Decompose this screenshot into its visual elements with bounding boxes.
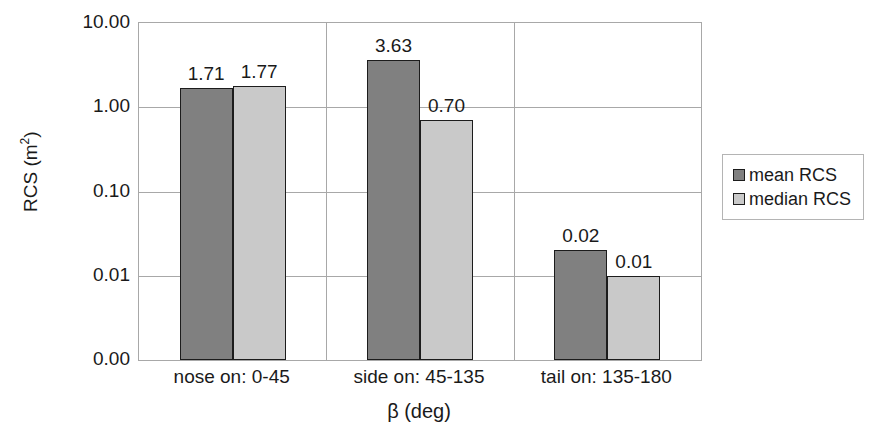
bar-value-label: 0.01 — [599, 252, 668, 271]
bar-value-label: 3.63 — [359, 36, 428, 55]
y-axis-tick-label: 10.00 — [10, 12, 130, 31]
legend-item-label: mean RCS — [749, 166, 837, 184]
bar-median[interactable] — [607, 276, 660, 360]
rcs-bar-chart: RCS (m2) 10.001.000.100.010.00 1.713.630… — [0, 0, 893, 447]
bar-value-label: 1.77 — [225, 62, 294, 81]
gridline-category-separator — [514, 23, 515, 360]
y-axis-tick-label: 0.00 — [10, 349, 130, 368]
bar-median[interactable] — [233, 86, 286, 360]
y-axis-tick-label: 0.10 — [10, 181, 130, 200]
x-axis-category-label: side on: 45-135 — [325, 366, 512, 387]
bar-mean[interactable] — [180, 88, 233, 360]
legend-item[interactable]: median RCS — [733, 187, 851, 211]
x-axis-category-label: tail on: 135-180 — [513, 366, 700, 387]
bar-value-label: 0.70 — [412, 96, 481, 115]
y-axis-tick-label: 0.01 — [10, 265, 130, 284]
y-axis-tick-label: 1.00 — [10, 96, 130, 115]
legend-swatch-icon — [733, 193, 745, 205]
legend-swatch-icon — [733, 169, 745, 181]
bar-median[interactable] — [420, 120, 473, 360]
plot-area: 1.713.630.021.770.700.01 — [138, 22, 702, 361]
legend-item[interactable]: mean RCS — [733, 163, 851, 187]
legend: mean RCSmedian RCS — [722, 154, 864, 220]
gridline-category-separator — [326, 23, 327, 360]
x-axis-title: β (deg) — [138, 400, 700, 423]
bar-value-label: 0.02 — [546, 226, 615, 245]
legend-item-label: median RCS — [749, 190, 851, 208]
y-axis-ticks: 10.001.000.100.010.00 — [0, 0, 130, 447]
x-axis-category-label: nose on: 0-45 — [138, 366, 325, 387]
